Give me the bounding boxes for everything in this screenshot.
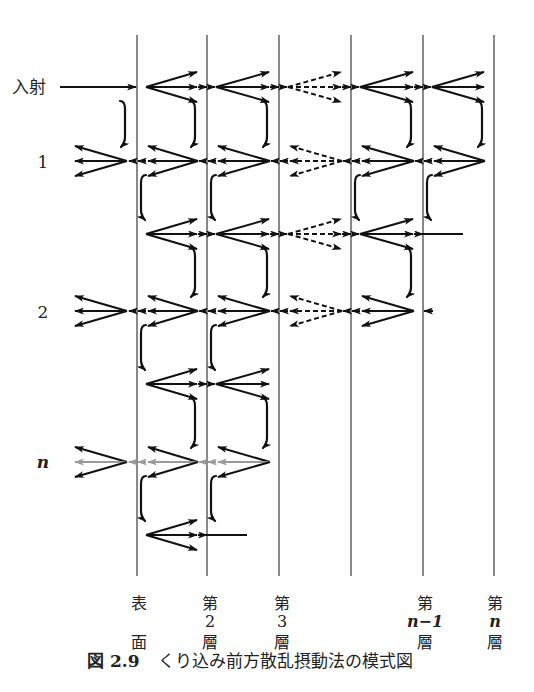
plane-label-layer-3: 第 3 層	[274, 594, 290, 652]
fan-arrow-lower	[146, 535, 197, 550]
plane-label-middle: n	[489, 612, 501, 631]
fan-arrow-lower	[216, 384, 269, 399]
reflection-hook-arrow	[427, 175, 432, 220]
plane-label-top: 第	[202, 594, 218, 613]
row-labels: 入射 1 2 n	[12, 77, 49, 472]
backward-scattering-fan	[290, 296, 342, 326]
fan-arrow-lower	[362, 311, 414, 326]
vacuum-backscatter-fan	[75, 146, 127, 176]
fan-arrow-lower	[75, 311, 127, 326]
fan-arrow-lower	[362, 161, 414, 176]
forward-scattering-fan	[288, 72, 341, 102]
reflection-hook-arrow	[190, 101, 195, 147]
plane-label-bottom: 層	[417, 633, 433, 652]
layer-planes	[137, 35, 494, 576]
forward-scattering-fan	[216, 72, 269, 102]
fan-arrow-lower	[218, 161, 270, 176]
backward-scattering-fan	[362, 146, 414, 176]
plane-label-top: 表	[131, 594, 147, 613]
reflection-hook-arrow	[406, 101, 411, 147]
fan-arrow-upper	[432, 72, 484, 87]
plane-label-layer-2: 第 2 層	[202, 594, 218, 652]
forward-scattering-fan	[288, 219, 341, 249]
vacuum-backscatter-fan	[75, 447, 127, 477]
scattering-row-order-2-backward	[75, 296, 433, 326]
plane-label-bottom: 層	[202, 633, 218, 652]
fan-arrow-upper	[146, 219, 197, 234]
forward-scattering-fan	[216, 219, 269, 249]
renormalized-forward-scattering-diagram: 入射 1 2 n 表 面 第 2 層 第 3 層 第 n−1 層	[0, 0, 534, 692]
plane-label-layer-n: 第 n 層	[487, 594, 503, 652]
fan-arrow-lower	[146, 384, 197, 399]
fan-arrow-lower	[218, 462, 270, 477]
fan-arrow-lower	[148, 161, 198, 176]
plane-label-bottom: 層	[487, 633, 503, 652]
backward-scattering-fan	[218, 447, 270, 477]
reflection-hook-arrow	[120, 101, 125, 147]
fan-arrow-upper	[148, 146, 198, 161]
forward-scattering-fan	[146, 369, 197, 399]
fan-arrow-lower	[290, 161, 342, 176]
reflection-hook-arrow	[141, 175, 146, 220]
fan-arrow-upper	[288, 72, 341, 87]
backward-scattering-fan	[148, 146, 198, 176]
fan-arrow-upper	[218, 146, 270, 161]
backward-scattering-fan	[148, 447, 198, 477]
fan-arrow-upper	[148, 296, 198, 311]
forward-scattering-fan	[146, 72, 197, 102]
plane-label-middle: 2	[205, 612, 215, 631]
backward-scattering-fan	[362, 296, 414, 326]
plane-label-layer-n-minus-1: 第 n−1 層	[407, 594, 443, 652]
plane-label-top: 第	[274, 594, 290, 613]
reflection-hook-arrow	[211, 175, 216, 220]
fan-arrow-upper	[75, 146, 127, 161]
fan-arrow-lower	[148, 311, 198, 326]
fan-arrow-lower	[146, 234, 197, 249]
plane-labels: 表 面 第 2 層 第 3 層 第 n−1 層 第 n 層	[131, 594, 503, 652]
plane-label-middle: 3	[277, 612, 287, 631]
fan-arrow-lower	[148, 462, 198, 477]
forward-scattering-fan	[146, 219, 197, 249]
fan-arrow-upper	[216, 219, 269, 234]
plane-label-bottom: 面	[131, 633, 147, 652]
backward-scattering-fan	[290, 146, 342, 176]
fan-arrow-lower	[146, 87, 197, 102]
fan-arrow-lower	[360, 87, 413, 102]
scattering-row-incident	[60, 72, 484, 102]
forward-scattering-fan	[432, 72, 484, 102]
figure-number: 図 2.9	[87, 651, 140, 671]
reflection-hook-arrow	[211, 476, 216, 521]
row-label-order-2: 2	[38, 302, 49, 322]
plane-label-middle: n−1	[407, 612, 443, 631]
reflection-hook-arrow	[262, 101, 267, 147]
reflection-hook-arrow	[355, 175, 360, 220]
fan-arrow-upper	[75, 296, 127, 311]
fan-arrow-upper	[148, 447, 198, 462]
plane-label-top: 第	[417, 594, 433, 613]
reflection-hook-arrow	[262, 398, 267, 448]
reflection-hook-arrow	[141, 325, 146, 370]
fan-arrow-upper	[360, 219, 413, 234]
fan-arrow-lower	[216, 87, 269, 102]
fan-arrow-upper	[360, 72, 413, 87]
fan-arrow-upper	[218, 296, 270, 311]
figure-title: くり込み前方散乱摂動法の模式図	[158, 651, 413, 671]
fan-arrow-upper	[362, 296, 414, 311]
forward-scattering-fan	[360, 72, 413, 102]
fan-arrow-upper	[290, 146, 342, 161]
fan-arrow-lower	[434, 161, 485, 176]
vacuum-backscatter-fan	[75, 296, 127, 326]
backward-scattering-fan	[148, 296, 198, 326]
row-label-incident: 入射	[12, 77, 46, 97]
fan-arrow-lower	[75, 161, 127, 176]
fan-arrow-upper	[290, 296, 342, 311]
fan-arrow-lower	[288, 234, 341, 249]
plane-label-top: 第	[487, 594, 503, 613]
figure-caption: 図 2.9 くり込み前方散乱摂動法の模式図	[87, 651, 413, 671]
fan-arrow-lower	[288, 87, 341, 102]
reflection-hook-arrow	[190, 248, 195, 297]
fan-arrow-lower	[216, 234, 269, 249]
reflection-hook-arrow	[477, 101, 482, 147]
reflection-hook-arrow	[406, 248, 411, 297]
fan-arrow-lower	[360, 234, 413, 249]
